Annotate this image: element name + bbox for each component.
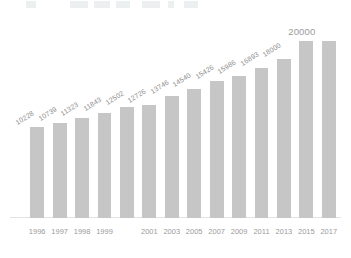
bar <box>165 96 179 218</box>
bar <box>142 105 156 218</box>
plot-area: 1022810739113231184312502127261374614540… <box>0 0 351 258</box>
bar-value-label: 10739 <box>37 105 58 122</box>
x-tick-label: 2003 <box>161 227 183 236</box>
bar <box>98 113 112 218</box>
bar <box>299 41 313 218</box>
bar-value-label: 12502 <box>104 90 125 107</box>
x-tick-label: 1999 <box>94 227 116 236</box>
bar-value-label: 16893 <box>239 51 260 68</box>
x-tick-label: 1998 <box>71 227 93 236</box>
bar-value-label: 20000 <box>288 26 315 37</box>
x-tick-label: 2005 <box>183 227 205 236</box>
x-tick-label: 2007 <box>206 227 228 236</box>
bar-value-label: 11323 <box>59 100 79 116</box>
bar-value-label: 12726 <box>127 88 148 105</box>
bar <box>187 89 201 218</box>
x-tick-label: 2017 <box>318 227 340 236</box>
bar <box>322 41 336 218</box>
bar <box>30 127 44 218</box>
x-tick-label: 1997 <box>49 227 71 236</box>
x-tick-label: 2013 <box>273 227 295 236</box>
x-tick-label: 2009 <box>228 227 250 236</box>
bar <box>210 81 224 218</box>
bar <box>255 68 269 218</box>
x-tick-label: 2015 <box>295 227 317 236</box>
bar <box>120 107 134 218</box>
bar-value-label: 18000 <box>261 41 282 58</box>
bar-value-label: 11843 <box>82 96 102 112</box>
bar-chart: 1022810739113231184312502127261374614540… <box>0 0 351 258</box>
bar-value-label: 15986 <box>216 59 237 76</box>
x-tick-label: 2011 <box>251 227 273 236</box>
bar-value-label: 14540 <box>172 72 193 89</box>
bar <box>53 123 67 218</box>
bar-value-label: 15426 <box>194 64 215 81</box>
bar-value-label: 10228 <box>15 110 36 127</box>
bar-value-label: 13746 <box>149 79 170 96</box>
bar <box>75 118 89 218</box>
x-tick-label: 2001 <box>138 227 160 236</box>
bar <box>277 59 291 218</box>
x-tick-label: 1996 <box>26 227 48 236</box>
bar <box>232 76 246 218</box>
